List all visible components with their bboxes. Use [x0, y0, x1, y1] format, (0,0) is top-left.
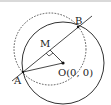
segment-OM [50, 50, 63, 63]
label-O: O(0, 0) [58, 67, 93, 78]
label-B: B [75, 15, 82, 26]
label-M: M [40, 38, 50, 49]
point-B [77, 26, 79, 28]
label-A: A [13, 75, 22, 86]
right-angle-marker [46, 53, 53, 56]
point-O [61, 61, 64, 64]
geometry-diagram: B M O(0, 0) A [0, 0, 111, 105]
point-A [22, 71, 24, 73]
